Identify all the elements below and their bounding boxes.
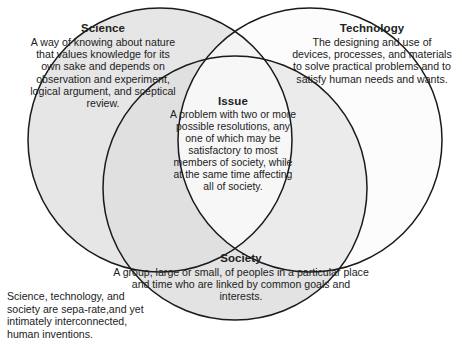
venn-diagram: Science A way of knowing about nature th… [0,0,462,352]
diagram-caption: Science, technology, and society are sep… [7,290,147,341]
